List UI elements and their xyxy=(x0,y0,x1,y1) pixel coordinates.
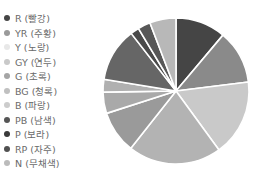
pie-chart xyxy=(0,0,260,174)
